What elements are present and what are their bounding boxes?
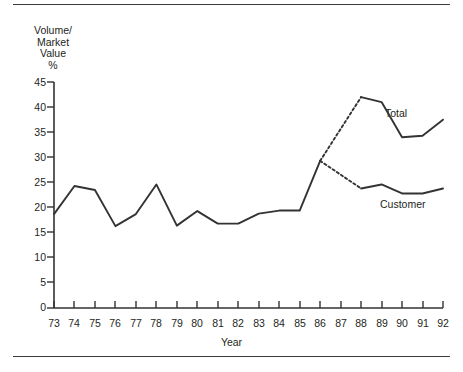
series-line-customer-dashed [320,161,361,189]
data-lines-group [54,97,443,226]
series-line-total-solid [361,97,443,137]
x-axis-ticks [54,301,443,308]
axes-group [47,82,443,308]
series-line-customer-solid [361,184,443,193]
series-line-shared [54,161,320,226]
figure-container: Volume/ Market Value % Year 45 40 35 30 … [0,0,463,372]
y-axis-ticks [47,82,54,308]
chart-plot-area [0,0,463,372]
series-line-total-dashed [320,97,361,161]
